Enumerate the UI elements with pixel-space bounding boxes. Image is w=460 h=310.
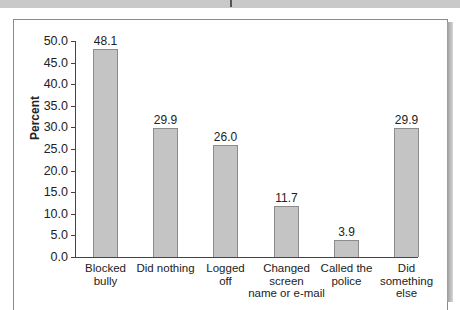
bar-value-label: 26.0 (201, 131, 251, 144)
x-axis (75, 257, 418, 258)
category-label-line: name or e-mail (242, 287, 332, 300)
y-tick-label: 45.0 (30, 56, 68, 70)
category-label-line: else (362, 287, 452, 300)
y-tick (71, 214, 75, 215)
y-tick (71, 149, 75, 150)
y-tick-label: 20.0 (30, 164, 68, 178)
bar-value-label: 48.1 (81, 35, 131, 48)
y-tick-label: 5.0 (30, 228, 68, 242)
y-tick (71, 235, 75, 236)
y-tick-label: 30.0 (30, 120, 68, 134)
y-tick-label: 35.0 (30, 99, 68, 113)
bar (274, 206, 299, 257)
category-label: Didsomethingelse (362, 262, 452, 300)
y-tick (71, 192, 75, 193)
y-tick-label: 15.0 (30, 185, 68, 199)
y-tick (71, 84, 75, 85)
y-tick-label: 50.0 (30, 34, 68, 48)
y-tick (71, 41, 75, 42)
category-label-line: Did (362, 262, 452, 275)
y-tick-label: 25.0 (30, 142, 68, 156)
bar (394, 128, 419, 257)
bar (153, 128, 178, 257)
category-label-line: bully (61, 275, 151, 288)
bar-value-label: 29.9 (382, 114, 432, 127)
y-tick-label: 40.0 (30, 77, 68, 91)
y-axis (75, 41, 76, 257)
y-tick (71, 171, 75, 172)
bar-value-label: 11.7 (262, 192, 312, 205)
y-tick (71, 63, 75, 64)
bar-value-label: 29.9 (141, 114, 191, 127)
y-tick (71, 127, 75, 128)
category-label-line: something (362, 275, 452, 288)
y-tick (71, 257, 75, 258)
y-tick (71, 106, 75, 107)
y-tick-label: 10.0 (30, 207, 68, 221)
bar (93, 49, 118, 257)
bar-value-label: 3.9 (322, 226, 372, 239)
bar (334, 240, 359, 257)
bar (213, 145, 238, 257)
